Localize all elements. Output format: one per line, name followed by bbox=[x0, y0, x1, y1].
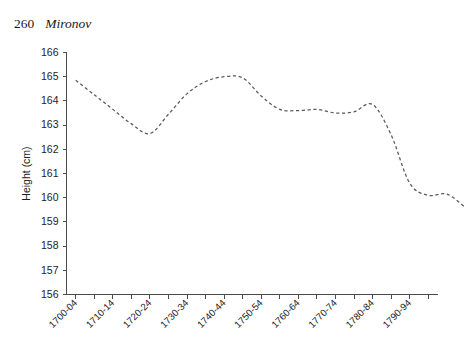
x-axis-tick-label: 1760-64 bbox=[269, 297, 302, 330]
y-axis: 156157158159160161162163164165166 bbox=[41, 46, 67, 300]
x-axis-tick-label: 1780-84 bbox=[343, 297, 376, 330]
y-axis-tick-label: 158 bbox=[41, 239, 59, 251]
x-axis-tick-label: 1770-74 bbox=[306, 297, 339, 330]
x-axis-tick-label: 1730-34 bbox=[158, 297, 191, 330]
y-axis-tick-label: 163 bbox=[41, 118, 59, 130]
y-axis-tick-label: 166 bbox=[41, 46, 59, 58]
x-axis-tick-label: 1790-94 bbox=[380, 297, 413, 330]
y-axis-tick-label: 160 bbox=[41, 191, 59, 203]
y-axis-title: Height (cm) bbox=[20, 146, 32, 200]
chart-canvas: 156157158159160161162163164165166 1700-0… bbox=[0, 0, 466, 340]
x-axis-tick-label: 1750-54 bbox=[232, 297, 265, 330]
figure-page: 260Mironov 15615715815916016116216316416… bbox=[0, 0, 466, 340]
x-axis-tick-label: 1720-24 bbox=[121, 297, 154, 330]
height-line-chart: 156157158159160161162163164165166 1700-0… bbox=[0, 0, 466, 340]
y-axis-tick-label: 162 bbox=[41, 143, 59, 155]
height-series-line bbox=[76, 76, 466, 208]
x-axis-tick-label: 1700-04 bbox=[47, 297, 80, 330]
y-axis-tick-label: 164 bbox=[41, 94, 59, 106]
x-axis-tick-label: 1710-14 bbox=[84, 297, 117, 330]
y-axis-tick-label: 161 bbox=[41, 167, 59, 179]
y-axis-tick-label: 157 bbox=[41, 264, 59, 276]
x-axis-tick-label: 1740-44 bbox=[195, 297, 228, 330]
y-axis-tick-label: 156 bbox=[41, 288, 59, 300]
y-axis-tick-label: 165 bbox=[41, 70, 59, 82]
x-axis: 1700-041710-141720-241730-341740-441750-… bbox=[47, 295, 438, 330]
y-axis-tick-label: 159 bbox=[41, 215, 59, 227]
